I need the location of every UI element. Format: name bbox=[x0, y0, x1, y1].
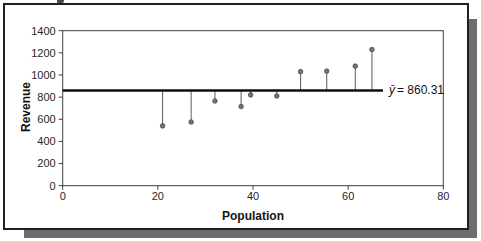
data-point-dot bbox=[353, 64, 358, 69]
x-axis: 020406080 bbox=[60, 186, 450, 203]
plot-area-box bbox=[63, 31, 444, 186]
y-tick-label: 600 bbox=[37, 113, 55, 125]
x-tick-label: 0 bbox=[60, 190, 66, 202]
mean-value-text: = 860.31 bbox=[397, 83, 444, 97]
data-point-dot bbox=[160, 124, 165, 129]
y-tick-label: 800 bbox=[37, 91, 55, 103]
y-tick-label: 200 bbox=[37, 157, 55, 169]
y-tick-label: 1400 bbox=[31, 25, 55, 37]
stems bbox=[163, 50, 372, 126]
x-tick-label: 40 bbox=[247, 190, 259, 202]
mean-line-label: ȳ= 860.31 bbox=[389, 83, 444, 97]
revenue-vs-population-chart: 0200400600800100012001400020406080 bbox=[0, 0, 481, 241]
data-point-dot bbox=[298, 69, 303, 74]
x-tick-label: 80 bbox=[437, 190, 449, 202]
y-tick-label: 400 bbox=[37, 135, 55, 147]
y-bar-symbol: ȳ bbox=[389, 83, 397, 97]
x-axis-title: Population bbox=[222, 209, 284, 223]
y-axis: 0200400600800100012001400 bbox=[31, 25, 62, 192]
data-point-dot bbox=[213, 99, 218, 104]
data-point-dot bbox=[239, 104, 244, 109]
data-point-dot bbox=[274, 94, 279, 99]
data-point-dot bbox=[189, 120, 194, 125]
x-tick-label: 60 bbox=[342, 190, 354, 202]
x-tick-label: 20 bbox=[152, 190, 164, 202]
y-tick-label: 1000 bbox=[31, 69, 55, 81]
data-point-dot bbox=[370, 47, 375, 52]
y-axis-title: Revenue bbox=[19, 82, 33, 132]
data-points bbox=[160, 47, 374, 128]
y-tick-label: 0 bbox=[50, 180, 56, 192]
data-point-dot bbox=[248, 93, 253, 98]
data-point-dot bbox=[324, 69, 329, 74]
y-tick-label: 1200 bbox=[31, 47, 55, 59]
